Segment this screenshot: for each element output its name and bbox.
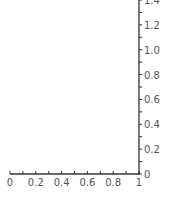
y-tick-label: 1.4 xyxy=(144,0,160,6)
y-tick-label: 0.2 xyxy=(144,144,160,155)
y-tick-label: 0 xyxy=(144,169,150,180)
x-tick-label: 0.4 xyxy=(54,177,70,188)
x-tick-label: 0.6 xyxy=(79,177,95,188)
chart: 00.20.40.60.81 00.20.40.60.81.01.21.4 xyxy=(0,0,178,204)
x-axis: 00.20.40.60.81 xyxy=(7,171,142,188)
y-tick-label: 0.4 xyxy=(144,119,160,130)
y-tick-label: 0.8 xyxy=(144,70,160,81)
x-tick-label: 0.8 xyxy=(105,177,121,188)
y-axis: 00.20.40.60.81.01.21.4 xyxy=(139,0,160,180)
x-tick-label: 1 xyxy=(136,177,142,188)
y-tick-label: 0.6 xyxy=(144,94,160,105)
y-tick-label: 1.2 xyxy=(144,20,160,31)
x-tick-label: 0 xyxy=(7,177,13,188)
y-tick-label: 1.0 xyxy=(144,45,160,56)
x-tick-label: 0.2 xyxy=(28,177,44,188)
